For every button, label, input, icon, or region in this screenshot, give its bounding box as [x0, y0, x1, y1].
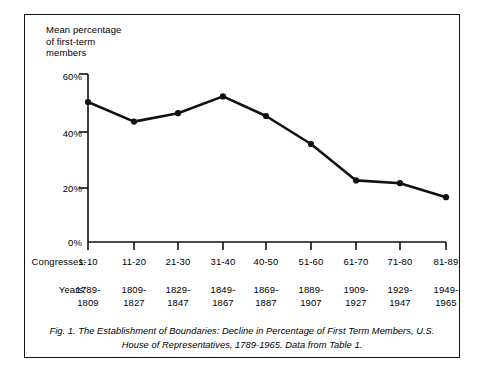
data-point-51-60 — [308, 141, 314, 147]
x-tick-label-6: 61-70 — [333, 256, 379, 269]
data-point-11-20 — [131, 119, 137, 125]
x-tick-label-1: 11-20 — [111, 256, 157, 269]
data-point-81-89 — [443, 194, 449, 200]
x-years-label-1: 1809- 1827 — [111, 284, 157, 309]
x-years-label-7: 1929- 1947 — [377, 284, 423, 309]
x-tick-label-7: 71-80 — [377, 256, 423, 269]
x-years-label-4: 1869- 1887 — [243, 284, 289, 309]
figure-root: Mean percentage of first-term members 60… — [0, 0, 484, 372]
x-axis-ticks — [88, 242, 446, 250]
x-years-label-3: 1849- 1867 — [200, 284, 246, 309]
x-years-label-6: 1909- 1927 — [333, 284, 379, 309]
data-point-40-50 — [263, 113, 269, 119]
series-line — [88, 96, 446, 197]
x-tick-label-8: 81-89 — [423, 256, 469, 269]
x-years-label-2: 1829- 1847 — [155, 284, 201, 309]
data-point-1-10 — [85, 99, 91, 105]
x-tick-label-4: 40-50 — [243, 256, 289, 269]
x-years-label-0: 1789- 1809 — [65, 284, 111, 309]
data-point-71-80 — [397, 180, 403, 186]
y-axis-ticks — [79, 74, 88, 188]
x-tick-label-0: 1-10 — [65, 256, 111, 269]
figure-caption: Fig. 1. The Establishment of Boundaries:… — [48, 324, 436, 352]
x-tick-label-3: 31-40 — [200, 256, 246, 269]
x-years-label-8: 1949- 1965 — [423, 284, 469, 309]
series-markers — [85, 93, 449, 200]
data-point-21-30 — [175, 110, 181, 116]
plot-area — [0, 0, 484, 372]
data-point-61-70 — [353, 177, 359, 183]
x-tick-label-2: 21-30 — [155, 256, 201, 269]
x-tick-label-5: 51-60 — [288, 256, 334, 269]
x-years-label-5: 1889- 1907 — [288, 284, 334, 309]
data-point-31-40 — [220, 93, 226, 99]
